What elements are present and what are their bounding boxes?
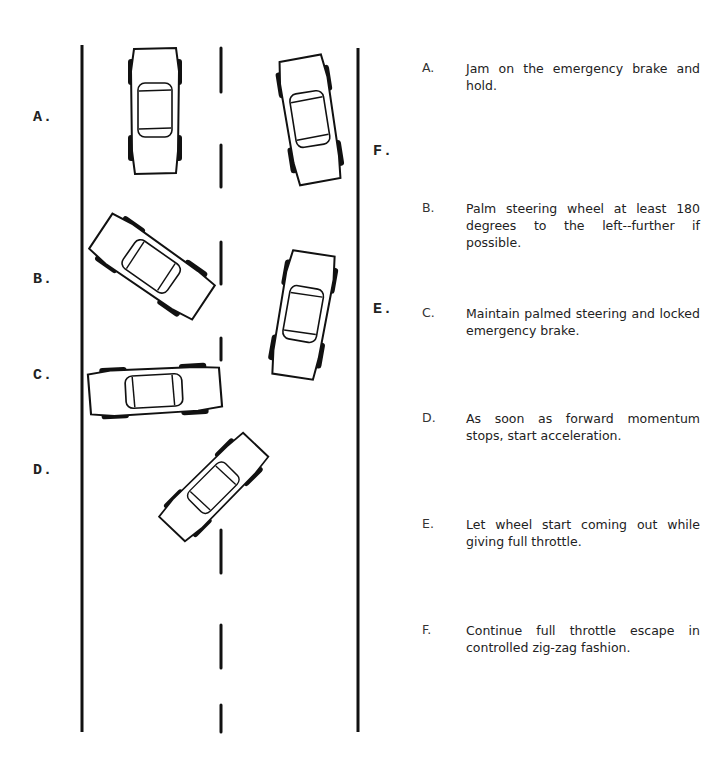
step-letter: F.	[422, 622, 431, 637]
step-letter: B.	[422, 200, 435, 215]
step-text: As soon as forward momentum stops, start…	[466, 410, 700, 444]
car-position-d	[155, 428, 272, 545]
car-position-e	[265, 248, 340, 381]
car-position-a	[128, 48, 182, 174]
step-letter: C.	[422, 305, 435, 320]
diagram-label-f: F.	[373, 143, 393, 160]
car-position-b	[85, 209, 219, 326]
step-letter: D.	[422, 410, 436, 425]
diagram-label-a: A.	[33, 109, 53, 126]
road-diagram: A. B. C. D. E. F.	[0, 0, 410, 774]
step-text: Continue full throttle escape in control…	[466, 622, 700, 656]
step-text: Jam on the emergency brake and hold.	[466, 60, 700, 94]
step-text: Let wheel start coming out while giving …	[466, 516, 700, 550]
instruction-list: A. Jam on the emergency brake and hold. …	[418, 0, 702, 774]
step-text: Palm steering wheel at least 180 degrees…	[466, 200, 700, 251]
road-illustration	[0, 0, 410, 774]
diagram-label-c: C.	[33, 367, 53, 384]
step-letter: A.	[422, 60, 434, 75]
step-letter: E.	[422, 516, 434, 531]
car-position-c	[88, 362, 223, 420]
diagram-label-d: D.	[33, 462, 53, 479]
car-position-f	[273, 54, 346, 187]
diagram-label-e: E.	[373, 301, 393, 318]
step-text: Maintain palmed steering and locked emer…	[466, 305, 700, 339]
diagram-label-b: B.	[33, 271, 53, 288]
